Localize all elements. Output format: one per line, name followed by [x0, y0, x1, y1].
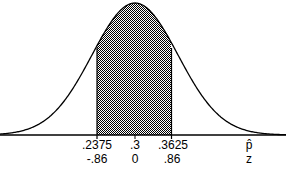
phat-mid-label: .3: [130, 138, 140, 152]
z-low-label: -.86: [87, 152, 108, 166]
phat-low-label: .2375: [82, 138, 112, 152]
phat-high-label: .3625: [158, 138, 188, 152]
z-high-label: .86: [164, 152, 181, 166]
z-axis-symbol: z: [246, 152, 252, 166]
normal-distribution-chart: .2375 .3 .3625 p̂ -.86 0 .86 z: [0, 0, 286, 176]
shaded-region: [0, 3, 286, 135]
phat-axis-symbol: p̂: [246, 138, 253, 152]
z-mid-label: 0: [132, 152, 139, 166]
